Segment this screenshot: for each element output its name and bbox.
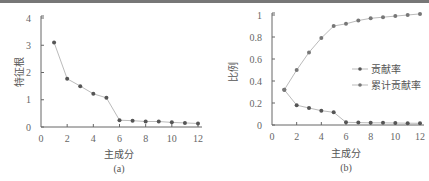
x-tick-label: 10 xyxy=(390,131,400,142)
data-point xyxy=(369,16,373,20)
chart-canvas: 01234024681012 特征根 主成分 (a) 00.20.40.60.8… xyxy=(0,0,429,181)
panel-a-xlabel: 主成分 xyxy=(104,149,134,160)
series-line xyxy=(284,90,420,124)
series-line xyxy=(284,14,420,90)
data-point xyxy=(393,121,397,125)
y-tick-label: 0.6 xyxy=(250,54,263,65)
data-point xyxy=(418,12,422,16)
data-point xyxy=(406,13,410,17)
panel-a-chart: 01234024681012 特征根 主成分 (a) xyxy=(13,13,203,176)
legend-label-cumulative: 累计贡献率 xyxy=(371,79,421,91)
y-tick-label: 1 xyxy=(257,10,262,21)
panel-b-legend: 贡献率 累计贡献率 xyxy=(352,63,421,91)
legend-marker-contribution xyxy=(358,67,362,71)
data-point xyxy=(356,19,360,23)
panel-a-series xyxy=(52,41,200,126)
data-point xyxy=(332,24,336,28)
data-point xyxy=(295,103,299,107)
data-point xyxy=(282,88,286,92)
x-tick-label: 10 xyxy=(167,133,177,144)
data-point xyxy=(319,109,323,113)
y-tick-label: 2 xyxy=(26,67,31,78)
data-point xyxy=(369,121,373,125)
data-point xyxy=(332,110,336,114)
data-point xyxy=(307,50,311,54)
data-point xyxy=(157,120,161,124)
data-point xyxy=(196,121,200,125)
data-point xyxy=(393,14,397,18)
legend-marker-cumulative xyxy=(358,83,362,87)
x-tick-label: 4 xyxy=(319,131,324,142)
y-tick-label: 1 xyxy=(26,94,31,105)
x-tick-label: 0 xyxy=(270,131,275,142)
series-line xyxy=(54,43,198,124)
data-point xyxy=(381,15,385,19)
panel-b-caption: (b) xyxy=(340,162,352,174)
panel-a-ylabel: 特征根 xyxy=(13,57,25,87)
x-tick-label: 8 xyxy=(143,133,148,144)
panel-b-xlabel: 主成分 xyxy=(331,148,361,159)
data-point xyxy=(78,84,82,88)
x-tick-label: 12 xyxy=(193,133,203,144)
data-point xyxy=(118,118,122,122)
y-tick-label: 0.2 xyxy=(250,98,263,109)
data-point xyxy=(418,121,422,125)
data-point xyxy=(319,36,323,40)
y-tick-label: 0.4 xyxy=(250,76,263,87)
panel-a-axes: 01234024681012 xyxy=(26,13,203,145)
x-tick-label: 0 xyxy=(39,133,44,144)
x-tick-label: 6 xyxy=(117,133,122,144)
x-tick-label: 4 xyxy=(91,133,96,144)
data-point xyxy=(52,41,56,45)
data-point xyxy=(406,121,410,125)
x-tick-label: 6 xyxy=(344,131,349,142)
x-tick-label: 2 xyxy=(65,133,70,144)
x-tick-label: 12 xyxy=(415,131,425,142)
x-tick-label: 8 xyxy=(368,131,373,142)
data-point xyxy=(295,68,299,72)
y-tick-label: 0.8 xyxy=(250,32,263,43)
data-point xyxy=(356,121,360,125)
data-point xyxy=(381,121,385,125)
y-tick-label: 0 xyxy=(26,122,31,133)
data-point xyxy=(344,22,348,26)
y-tick-label: 0 xyxy=(257,120,262,131)
panel-b-chart: 00.20.40.60.81024681012 比例 主成分 (b) 贡献率 累… xyxy=(227,10,425,175)
y-tick-label: 3 xyxy=(26,40,31,51)
data-point xyxy=(104,96,108,100)
data-point xyxy=(307,106,311,110)
data-point xyxy=(183,121,187,125)
data-point xyxy=(91,92,95,96)
data-point xyxy=(131,119,135,123)
panel-b-axes: 00.20.40.60.81024681012 xyxy=(250,10,426,143)
data-point xyxy=(170,120,174,124)
data-point xyxy=(65,77,69,81)
panel-a-caption: (a) xyxy=(113,163,124,175)
x-tick-label: 2 xyxy=(294,131,299,142)
panel-b-ylabel: 比例 xyxy=(227,62,239,82)
legend-label-contribution: 贡献率 xyxy=(371,63,401,75)
data-point xyxy=(344,120,348,124)
y-tick-label: 4 xyxy=(26,13,31,24)
data-point xyxy=(144,120,148,124)
